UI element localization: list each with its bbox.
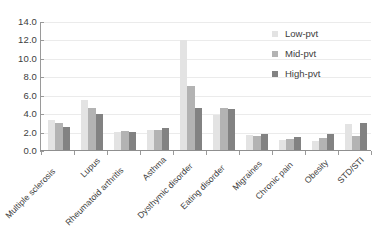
y-tick-mark <box>40 59 44 60</box>
legend-swatch-icon <box>272 71 278 77</box>
legend-item[interactable]: High-pvt <box>272 64 372 84</box>
x-tick-label: Lupus <box>79 156 102 179</box>
x-tick-label: Rheumatoid arthritis <box>64 166 125 227</box>
legend-label: Mid-pvt <box>285 49 316 59</box>
x-tick-mark <box>239 151 240 155</box>
x-tick-mark <box>338 151 339 155</box>
x-tick-mark <box>41 151 42 155</box>
legend-item[interactable]: Low-pvt <box>272 24 372 44</box>
legend-swatch-icon <box>272 31 278 37</box>
x-tick-mark <box>107 151 108 155</box>
legend-label: High-pvt <box>285 69 320 79</box>
x-tick-label: Asthma <box>141 155 168 182</box>
legend-label: Low-pvt <box>285 29 318 39</box>
x-tick-mark <box>140 151 141 155</box>
bar-chart: 0.02.04.06.08.010.012.014.0 Multiple scl… <box>0 0 379 243</box>
y-tick-mark <box>40 114 44 115</box>
chart-legend: Low-pvtMid-pvtHigh-pvt <box>272 24 372 84</box>
x-tick-mark <box>305 151 306 155</box>
y-tick-mark <box>40 40 44 41</box>
x-tick-mark <box>206 151 207 155</box>
y-tick-mark <box>40 77 44 78</box>
x-tick-label: Multiple sclerosis <box>4 167 57 220</box>
y-tick-mark <box>40 22 44 23</box>
x-tick-label: STD/STI <box>336 156 366 186</box>
x-tick-mark <box>371 151 372 155</box>
x-tick-mark <box>74 151 75 155</box>
y-tick-mark <box>40 133 44 134</box>
x-tick-mark <box>272 151 273 155</box>
y-tick-mark <box>40 96 44 97</box>
x-tick-label: Obesity <box>303 158 330 185</box>
legend-swatch-icon <box>272 51 278 57</box>
x-tick-mark <box>173 151 174 155</box>
legend-item[interactable]: Mid-pvt <box>272 44 372 64</box>
